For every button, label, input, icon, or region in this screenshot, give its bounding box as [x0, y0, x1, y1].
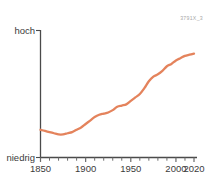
axes-group	[36, 30, 197, 158]
line-chart-plot: 18501900195020002020 hoch niedrig	[0, 0, 216, 187]
x-axis-ticks	[41, 158, 195, 163]
y-axis-label-low: niedrig	[6, 152, 35, 163]
chart-container: 3791X_3 18501900195020002020 hoch niedri…	[0, 0, 216, 187]
y-axis-label-high: hoch	[14, 25, 35, 36]
x-axis-tick-label: 1850	[30, 163, 51, 174]
x-axis-tick-labels: 18501900195020002020	[30, 163, 205, 174]
x-axis-tick-label: 2020	[183, 163, 204, 174]
trend-line-series	[41, 54, 195, 135]
x-axis-tick-label: 1900	[75, 163, 96, 174]
x-axis-tick-label: 1950	[120, 163, 141, 174]
